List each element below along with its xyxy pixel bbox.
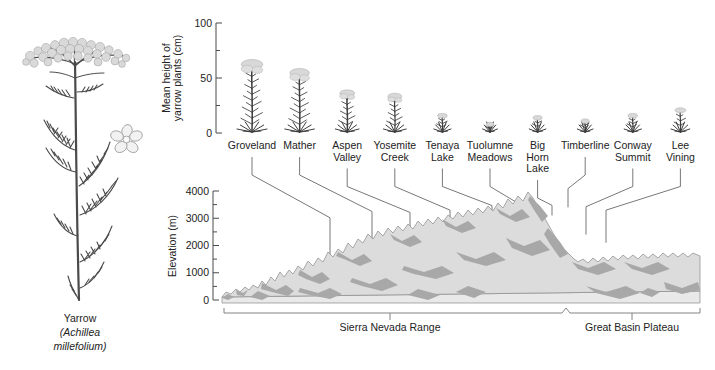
height-tick-0: 0 [206, 127, 212, 139]
specimen-caption-genus: (Achillea [60, 326, 100, 338]
plant-flower-head [438, 113, 448, 117]
site-label: Tuolumne [467, 139, 513, 151]
plant-stem [633, 117, 634, 131]
plant-stem [680, 112, 681, 131]
site-label: Lee [672, 139, 690, 151]
plant-flower-head [347, 95, 354, 100]
plant-glyph [237, 60, 267, 132]
site-label: Lake [526, 162, 549, 174]
site-label: Mather [283, 139, 316, 151]
site-label: Tenaya [425, 139, 459, 151]
site-leader-line [586, 169, 633, 235]
specimen-caption-common: Yarrow [64, 312, 97, 324]
plant-flower-head [533, 116, 542, 120]
region-label-great-basin: Great Basin Plateau [585, 321, 679, 333]
elevation-axis-title: Elevation (m) [166, 215, 178, 277]
site-label: Timberline [561, 139, 610, 151]
site-label: Summit [615, 151, 651, 163]
site-label: Conway [614, 139, 653, 151]
plant-glyph [483, 122, 498, 132]
plant-flower-head [241, 65, 253, 72]
plant-flower-head [340, 94, 348, 99]
plant-glyph [577, 119, 593, 132]
leaf-cluster [44, 84, 118, 300]
plant-flower-head [628, 113, 638, 117]
site-label: Lake [431, 151, 454, 163]
plant-glyph [529, 116, 546, 132]
plant-flower-head [675, 108, 686, 113]
height-tick-100: 100 [194, 17, 212, 29]
elevation-tick-0: 0 [203, 294, 209, 306]
site-label: Creek [381, 151, 410, 163]
plant-stem [537, 120, 538, 132]
plant-stem [442, 117, 443, 131]
site-label: Yosemite [373, 139, 416, 151]
plant-glyph [285, 68, 315, 132]
plant-glyph [434, 113, 451, 132]
plant-flower-head [388, 97, 396, 102]
figure-svg: Yarrow (Achillea millefolium) Mean heigh… [0, 0, 715, 370]
elevation-tick-4000: 4000 [186, 185, 210, 197]
specimen-caption-species: millefolium) [53, 340, 106, 352]
plant-glyph [671, 108, 690, 132]
site-label: Vining [666, 151, 695, 163]
terrain-silhouette [222, 192, 700, 297]
site-leader-line [606, 169, 680, 243]
plant-stem [585, 123, 586, 131]
plant-stem [252, 65, 253, 132]
plant-glyph-layer [237, 60, 690, 132]
plant-flower-head [581, 119, 589, 123]
single-flower-detail [109, 123, 143, 155]
plant-flower-head [300, 75, 310, 81]
site-label-layer: GrovelandMatherAspenValleyYosemiteCreekT… [228, 139, 695, 174]
plant-stem [299, 73, 300, 131]
elevation-tick-3000: 3000 [186, 212, 210, 224]
elevation-tick-1000: 1000 [186, 266, 210, 278]
yarrow-specimen-illustration: Yarrow (Achillea millefolium) [23, 37, 144, 352]
height-tick-50: 50 [200, 72, 212, 84]
region-brackets [224, 308, 700, 320]
plant-flower-head [290, 74, 301, 81]
site-label: Big [530, 139, 545, 151]
site-label: Meadows [468, 151, 513, 163]
site-leader-line [568, 157, 585, 207]
plant-glyph [624, 113, 641, 132]
figure-root: Yarrow (Achillea millefolium) Mean heigh… [0, 0, 715, 370]
site-label: Valley [333, 151, 362, 163]
region-label-sierra-nevada: Sierra Nevada Range [340, 321, 441, 333]
site-label: Horn [526, 151, 549, 163]
plant-flower-head [395, 98, 402, 103]
plant-glyph [383, 93, 406, 132]
plant-glyph [335, 90, 359, 132]
site-label: Aspen [332, 139, 362, 151]
height-axis-title-line2: yarrow plants (cm) [171, 35, 183, 121]
plant-height-chart: Mean height of yarrow plants (cm) 100 50… [160, 17, 695, 174]
plant-flower-head [252, 66, 263, 73]
elevation-profile-chart: Elevation (m) 4000 3000 2000 1000 0 [166, 185, 700, 333]
plant-flower-head [486, 122, 493, 126]
site-label: Groveland [228, 139, 277, 151]
elevation-tick-2000: 2000 [186, 239, 210, 251]
